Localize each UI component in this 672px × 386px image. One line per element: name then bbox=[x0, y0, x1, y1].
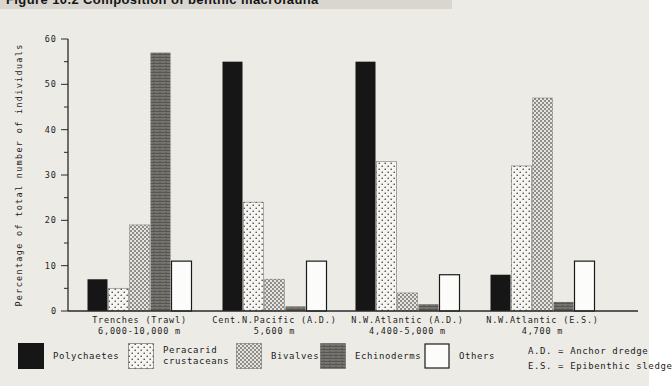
x-category-label: Cent.N.Pacific (A.D.) bbox=[212, 315, 336, 325]
y-tick-label: 50 bbox=[45, 79, 57, 89]
legend-label: Peracarid crustaceans bbox=[163, 345, 229, 367]
legend-item-echinoderms: Echinoderms bbox=[320, 343, 421, 369]
bar-polychaetes bbox=[491, 275, 511, 311]
bar-echinoderms bbox=[151, 53, 171, 311]
bar-others bbox=[172, 261, 192, 311]
x-category-sublabel: 5,600 m bbox=[254, 326, 295, 336]
legend-label: Others bbox=[459, 351, 495, 362]
bar-peracarid-crustaceans bbox=[109, 288, 129, 311]
x-category-label: Trenches (Trawl) bbox=[92, 315, 187, 325]
bar-echinoderms bbox=[554, 302, 574, 311]
bar-chart: 0102030405060Percentage of total number … bbox=[0, 0, 649, 340]
legend-notes: A.D. = Anchor dredge E.S. = Epibenthic s… bbox=[528, 344, 672, 374]
x-category-sublabel: 4,400-5,000 m bbox=[369, 326, 446, 336]
bar-bivalves bbox=[398, 293, 418, 311]
bar-bivalves bbox=[265, 279, 285, 311]
bar-bivalves bbox=[130, 225, 150, 311]
bar-echinoderms bbox=[419, 304, 439, 311]
peracarid-swatch-icon bbox=[128, 343, 154, 369]
x-category-label: N.W.Atlantic (E.S.) bbox=[486, 315, 598, 325]
legend-item-polychaetes: Polychaetes bbox=[18, 343, 119, 369]
x-category-sublabel: 4,700 m bbox=[522, 326, 563, 336]
bar-others bbox=[575, 261, 595, 311]
bar-polychaetes bbox=[356, 62, 376, 311]
legend-label: Echinoderms bbox=[355, 351, 421, 362]
y-tick-label: 40 bbox=[45, 125, 57, 135]
legend-item-peracarid: Peracarid crustaceans bbox=[128, 343, 229, 369]
bar-bivalves bbox=[533, 98, 553, 311]
bar-peracarid-crustaceans bbox=[377, 161, 397, 311]
echinoderms-swatch-icon bbox=[320, 343, 346, 369]
y-tick-label: 0 bbox=[51, 306, 57, 316]
y-tick-label: 30 bbox=[45, 170, 57, 180]
legend-label: Bivalves bbox=[271, 351, 319, 362]
legend-item-others: Others bbox=[424, 343, 495, 369]
others-swatch-icon bbox=[424, 343, 450, 369]
note-anchor-dredge: A.D. = Anchor dredge bbox=[528, 344, 672, 359]
chart-legend: Polychaetes Peracarid crustaceans Bivalv… bbox=[0, 340, 649, 382]
bar-peracarid-crustaceans bbox=[244, 202, 264, 311]
y-tick-label: 10 bbox=[45, 261, 57, 271]
polychaetes-swatch-icon bbox=[18, 343, 44, 369]
x-category-label: N.W.Atlantic (A.D.) bbox=[351, 315, 463, 325]
y-tick-label: 20 bbox=[45, 215, 57, 225]
bar-others bbox=[307, 261, 327, 311]
note-epibenthic-sledge: E.S. = Epibenthic sledge bbox=[528, 359, 672, 374]
legend-item-bivalves: Bivalves bbox=[236, 343, 319, 369]
y-axis-title: Percentage of total number of individual… bbox=[14, 43, 24, 306]
legend-label: Polychaetes bbox=[53, 351, 119, 362]
bar-polychaetes bbox=[88, 279, 108, 311]
bar-echinoderms bbox=[286, 306, 306, 311]
bar-others bbox=[440, 275, 460, 311]
bar-peracarid-crustaceans bbox=[512, 166, 532, 311]
y-tick-label: 60 bbox=[45, 34, 57, 44]
bivalves-swatch-icon bbox=[236, 343, 262, 369]
x-category-sublabel: 6,000-10,000 m bbox=[98, 326, 181, 336]
bar-polychaetes bbox=[223, 62, 243, 311]
